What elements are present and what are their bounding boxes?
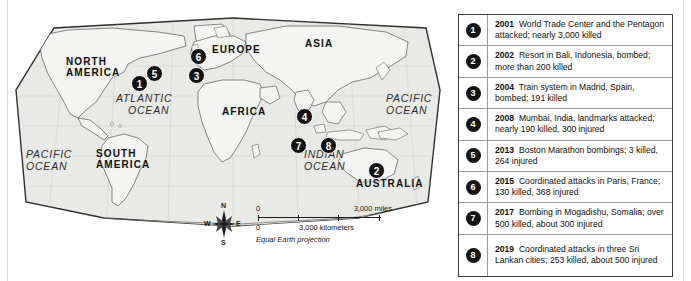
legend-number-cell: 4 (459, 109, 488, 139)
legend-description: Bombing in Mogadishu, Somalia; over 500 … (495, 207, 664, 228)
legend-entry-text: 2015 Coordinated attacks in Paris, Franc… (495, 176, 667, 198)
legend-year: 2019 (495, 244, 514, 254)
scale-max-kilometers: 3,000 kilometers (299, 223, 354, 232)
legend-description: Resort in Bali, Indonesia, bombed; more … (495, 50, 650, 71)
legend-row[interactable]: 1 2001 World Trade Center and the Pentag… (459, 15, 672, 46)
legend-entry-text: 2004 Train system in Madrid, Spain, bomb… (495, 82, 667, 104)
legend-text-cell: 2013 Boston Marathon bombings; 3 killed,… (488, 141, 672, 171)
map-marker-7[interactable]: 7 (290, 137, 307, 154)
legend-entry-text: 2001 World Trade Center and the Pentagon… (495, 19, 667, 41)
legend-text-cell: 2019 Coordinated attacks in three Sri La… (488, 235, 672, 276)
legend-text-cell: 2015 Coordinated attacks in Paris, Franc… (488, 172, 672, 202)
legend-bullet-4: 4 (466, 117, 481, 132)
page-root: NORTH AMERICA SOUTH AMERICA EUROPE ASIA … (0, 0, 691, 281)
map-projection-note: Equal Earth projection (256, 235, 330, 244)
events-legend: 1 2001 World Trade Center and the Pentag… (458, 14, 673, 277)
compass-west-label: W (204, 220, 211, 227)
legend-entry-text: 2019 Coordinated attacks in three Sri La… (495, 244, 667, 266)
map-marker-5[interactable]: 5 (146, 65, 163, 82)
legend-entry-text: 2002 Resort in Bali, Indonesia, bombed; … (495, 50, 667, 72)
map-marker-3[interactable]: 3 (188, 67, 205, 84)
legend-year: 2015 (495, 176, 514, 186)
legend-year: 2004 (495, 82, 514, 92)
scale-zero-km: 0 (256, 223, 260, 232)
legend-description: Coordinated attacks in Paris, France; 13… (495, 176, 660, 197)
scale-tick-mid1 (298, 215, 299, 221)
scale-ruler (258, 215, 381, 221)
scale-ruler-bar (258, 217, 381, 218)
legend-row[interactable]: 4 2008 Mumbai, India, landmarks attacked… (459, 109, 672, 140)
legend-entry-text: 2008 Mumbai, India, landmarks attacked; … (495, 113, 667, 135)
legend-description: World Trade Center and the Pentagon atta… (495, 19, 664, 40)
scale-max-miles: 3,000 miles (354, 204, 392, 213)
legend-description: Boston Marathon bombings; 3 killed, 264 … (495, 145, 658, 166)
scale-tick-end (379, 215, 380, 221)
legend-entry-text: 2017 Bombing in Mogadishu, Somalia; over… (495, 207, 667, 229)
legend-row[interactable]: 2 2002 Resort in Bali, Indonesia, bombed… (459, 46, 672, 77)
map-marker-8[interactable]: 8 (320, 137, 337, 154)
legend-number-cell: 2 (459, 46, 488, 76)
legend-year: 2017 (495, 207, 514, 217)
legend-text-cell: 2001 World Trade Center and the Pentagon… (488, 15, 672, 45)
legend-row[interactable]: 8 2019 Coordinated attacks in three Sri … (459, 235, 672, 276)
legend-description: Mumbai, India, landmarks attacked; nearl… (495, 113, 655, 134)
legend-year: 2002 (495, 50, 514, 60)
legend-bullet-5: 5 (466, 148, 481, 163)
legend-number-cell: 8 (459, 235, 488, 276)
legend-row[interactable]: 7 2017 Bombing in Mogadishu, Somalia; ov… (459, 203, 672, 234)
legend-number-cell: 3 (459, 78, 488, 108)
legend-bullet-7: 7 (466, 211, 481, 226)
page-right-rule (683, 0, 684, 281)
map-marker-1[interactable]: 1 (131, 75, 148, 92)
legend-bullet-2: 2 (466, 54, 481, 69)
legend-bullet-6: 6 (466, 180, 481, 195)
scale-tick-mid2 (338, 215, 339, 221)
legend-bullet-1: 1 (466, 23, 481, 38)
legend-text-cell: 2002 Resort in Bali, Indonesia, bombed; … (488, 46, 672, 76)
compass-rose: N S W E (204, 202, 244, 248)
legend-description: Coordinated attacks in three Sri Lankan … (495, 244, 657, 265)
compass-south-label: S (221, 239, 226, 246)
legend-row[interactable]: 5 2013 Boston Marathon bombings; 3 kille… (459, 141, 672, 172)
legend-text-cell: 2017 Bombing in Mogadishu, Somalia; over… (488, 203, 672, 233)
compass-east-label: E (236, 220, 241, 227)
world-map-figure: NORTH AMERICA SOUTH AMERICA EUROPE ASIA … (8, 6, 448, 276)
legend-year: 2013 (495, 145, 514, 155)
legend-row[interactable]: 3 2004 Train system in Madrid, Spain, bo… (459, 78, 672, 109)
map-marker-6[interactable]: 6 (190, 48, 207, 65)
map-marker-2[interactable]: 2 (368, 162, 385, 179)
legend-number-cell: 7 (459, 203, 488, 233)
legend-number-cell: 5 (459, 141, 488, 171)
compass-north-label: N (221, 202, 226, 209)
legend-bullet-3: 3 (466, 86, 481, 101)
map-scale-bar: 0 3,000 miles 0 3,000 kilometers Equal E… (256, 204, 396, 252)
scale-zero-miles: 0 (256, 204, 260, 213)
legend-bullet-8: 8 (466, 248, 481, 263)
legend-year: 2008 (495, 113, 514, 123)
legend-year: 2001 (495, 19, 514, 29)
legend-description: Train system in Madrid, Spain, bombed; 1… (495, 82, 635, 103)
legend-text-cell: 2004 Train system in Madrid, Spain, bomb… (488, 78, 672, 108)
scale-tick-start (258, 215, 259, 221)
legend-number-cell: 6 (459, 172, 488, 202)
legend-entry-text: 2013 Boston Marathon bombings; 3 killed,… (495, 145, 667, 167)
map-marker-4[interactable]: 4 (296, 108, 313, 125)
legend-number-cell: 1 (459, 15, 488, 45)
legend-text-cell: 2008 Mumbai, India, landmarks attacked; … (488, 109, 672, 139)
legend-row[interactable]: 6 2015 Coordinated attacks in Paris, Fra… (459, 172, 672, 203)
